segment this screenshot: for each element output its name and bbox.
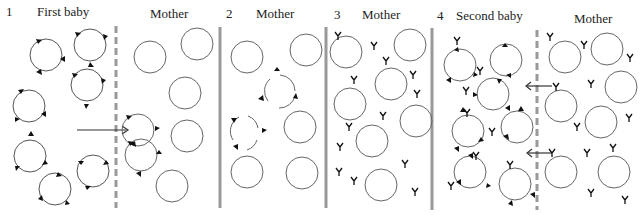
mother-cells-3 <box>330 29 432 201</box>
antibody-transfer-arrows <box>526 82 552 157</box>
transfer-arrow-1 <box>77 126 128 134</box>
antibodies-3 <box>335 32 420 196</box>
antibodies-baby-4 <box>448 37 513 190</box>
rh-positive-cells-baby-1 <box>13 29 109 205</box>
destroyed-baby-cells-4 <box>444 44 533 200</box>
rh-disease-diagram <box>0 0 643 215</box>
antibody-complexes-4 <box>446 43 535 206</box>
mother-cells-4 <box>545 33 637 188</box>
antigen-markers-1 <box>15 32 109 205</box>
mother-cells-2 <box>230 34 322 189</box>
mother-cells-1 <box>122 28 213 202</box>
